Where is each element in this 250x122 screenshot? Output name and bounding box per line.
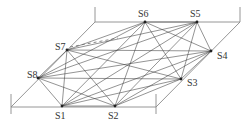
edge-s4-s5 xyxy=(197,22,211,51)
node-s5 xyxy=(196,21,199,24)
node-label-s2: S2 xyxy=(108,110,119,121)
edge-s1-s3 xyxy=(62,79,181,106)
node-s6 xyxy=(144,21,147,24)
edge-s3-s8 xyxy=(38,78,181,79)
graph-edges xyxy=(38,22,211,106)
edge-s1-s6 xyxy=(62,22,145,106)
node-label-s8: S8 xyxy=(27,69,38,80)
node-label-s5: S5 xyxy=(190,8,201,19)
node-label-s1: S1 xyxy=(55,110,66,121)
node-s2 xyxy=(114,105,117,108)
complete-graph-diagram: S1S2S3S4S5S6S7S8 xyxy=(0,0,250,122)
edge-s4-s7 xyxy=(67,50,211,51)
dashed-line xyxy=(70,38,118,47)
edge-s2-s8 xyxy=(38,78,115,106)
node-s7 xyxy=(66,49,69,52)
node-label-s4: S4 xyxy=(217,50,228,61)
edge-s7-s8 xyxy=(38,50,67,78)
edge-s2-s6 xyxy=(115,22,145,106)
frame-right-edge xyxy=(156,22,240,107)
node-label-s6: S6 xyxy=(138,8,149,19)
node-label-s7: S7 xyxy=(55,41,66,52)
node-s4 xyxy=(210,50,213,53)
parallelogram-frame xyxy=(11,7,240,114)
node-s3 xyxy=(180,78,183,81)
dashed-segment xyxy=(70,38,118,47)
node-label-s3: S3 xyxy=(187,77,198,88)
node-s1 xyxy=(61,105,64,108)
